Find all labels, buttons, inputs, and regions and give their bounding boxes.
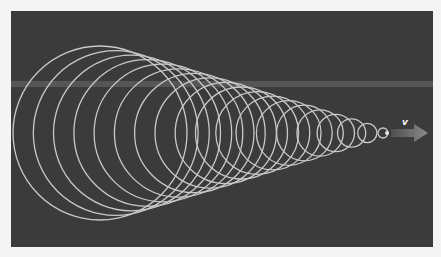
- velocity-arrow-icon: [391, 124, 428, 142]
- wavefront-circle: [297, 110, 343, 156]
- wavefronts: [13, 46, 388, 220]
- source-dot: [385, 131, 389, 135]
- velocity-label: v: [402, 117, 408, 127]
- wavefront-circle: [53, 55, 209, 211]
- wavefront-circle: [33, 51, 198, 216]
- wavefront-circle: [358, 123, 377, 142]
- wavefront-circle: [317, 114, 354, 151]
- wavefront-circle: [13, 46, 187, 220]
- doppler-diagram: [0, 0, 441, 257]
